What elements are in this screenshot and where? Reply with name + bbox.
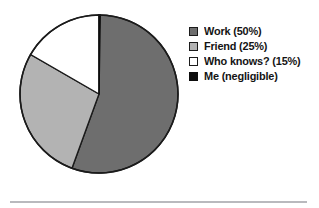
- legend-item-friend[interactable]: Friend (25%): [189, 39, 317, 54]
- legend-swatch-me: [189, 72, 198, 81]
- pie-chart-figure: Work (50%) Friend (25%) Who knows? (15%)…: [0, 0, 319, 208]
- legend-label-friend: Friend (25%): [204, 39, 267, 54]
- pie-svg: [18, 13, 180, 175]
- legend-item-me[interactable]: Me (negligible): [189, 69, 317, 84]
- legend-item-work[interactable]: Work (50%): [189, 24, 317, 39]
- legend-label-work: Work (50%): [204, 24, 261, 39]
- footer-divider: [10, 201, 307, 203]
- legend-label-me: Me (negligible): [204, 69, 278, 84]
- legend-swatch-who-knows: [189, 57, 198, 66]
- legend-swatch-work: [189, 27, 198, 36]
- legend: Work (50%) Friend (25%) Who knows? (15%)…: [189, 24, 317, 84]
- legend-swatch-friend: [189, 42, 198, 51]
- pie-chart-plot: [18, 13, 180, 175]
- legend-label-who-knows: Who knows? (15%): [204, 54, 301, 69]
- legend-item-who-knows[interactable]: Who knows? (15%): [189, 54, 317, 69]
